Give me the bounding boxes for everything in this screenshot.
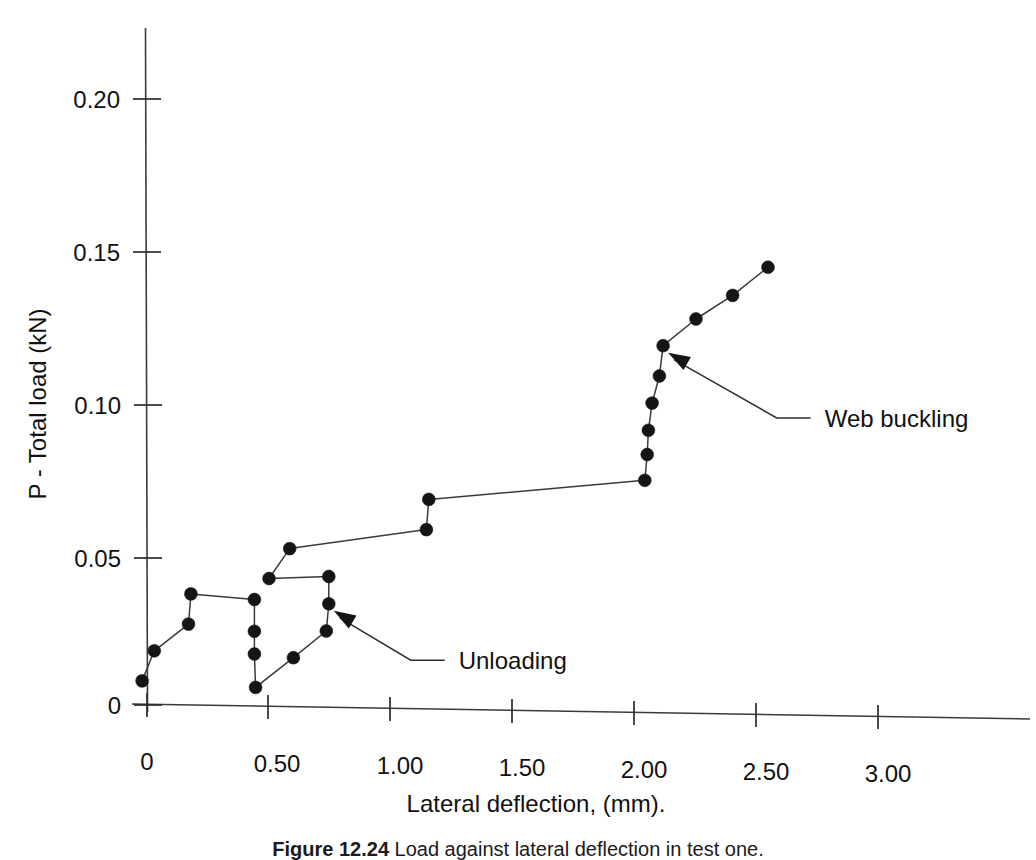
data-point-marker: [646, 397, 659, 410]
data-point-marker: [726, 289, 739, 302]
data-point-marker: [322, 570, 335, 583]
x-axis-title: Lateral deflection, (mm).: [407, 790, 666, 817]
y-axis-line: [146, 28, 148, 712]
data-point-marker: [248, 625, 261, 638]
data-point-marker: [420, 523, 433, 536]
x-ticks-group: [147, 693, 878, 729]
y-ticklabel-1: 0.05: [74, 545, 121, 572]
data-point-marker: [248, 648, 261, 661]
data-point-marker: [263, 572, 276, 585]
x-ticklabel-4: 2.00: [621, 756, 668, 783]
figure-caption-text: Load against lateral deflection in test …: [395, 838, 764, 860]
x-ticklabel-0: 0: [140, 748, 153, 775]
annotation-leader-line: [674, 360, 811, 418]
figure-container: 0.20 0.15 0.10 0.05 0 0 0.50 1.00 1.50 2…: [0, 0, 1036, 860]
figure-caption-number: Figure 12.24: [272, 838, 389, 860]
figure-caption-strip: Figure 12.24 Load against lateral deflec…: [0, 838, 1036, 860]
annotation-web-buckling-label: Web buckling: [825, 405, 969, 432]
annotations-layer: [334, 353, 811, 661]
data-point-marker: [136, 675, 149, 688]
y-ticklabel-0: 0: [108, 692, 121, 719]
data-point-marker: [182, 618, 195, 631]
x-ticklabel-5: 2.50: [743, 758, 790, 785]
y-axis-title: P - Total load (kN): [24, 308, 51, 499]
x-ticklabel-3: 1.50: [499, 754, 546, 781]
x-ticklabel-6: 3.00: [865, 760, 912, 787]
axes-group: [132, 28, 1030, 719]
figure-caption: Figure 12.24 Load against lateral deflec…: [0, 838, 1036, 860]
data-point-marker: [287, 651, 300, 664]
data-point-marker: [248, 593, 261, 606]
data-point-marker: [642, 424, 655, 437]
y-ticklabel-3: 0.15: [73, 239, 120, 266]
y-ticklabel-2: 0.10: [74, 392, 121, 419]
series-line: [142, 267, 768, 687]
x-ticklabel-1: 0.50: [254, 750, 301, 777]
x-ticklabel-2: 1.00: [377, 752, 424, 779]
data-point-marker: [638, 474, 651, 487]
data-point-marker: [185, 588, 198, 601]
data-point-marker: [641, 448, 654, 461]
x-ticklabels-group: 0 0.50 1.00 1.50 2.00 2.50 3.00: [140, 748, 911, 787]
data-point-marker: [762, 261, 775, 274]
x-axis-line: [132, 704, 1030, 719]
data-point-marker: [657, 339, 670, 352]
annotation-leader-line: [340, 618, 445, 660]
annotation-unloading-label: Unloading: [459, 647, 567, 674]
y-ticklabels-group: 0.20 0.15 0.10 0.05 0: [73, 86, 121, 719]
y-ticklabel-4: 0.20: [73, 86, 120, 113]
data-point-marker: [148, 644, 161, 657]
data-point-marker: [422, 493, 435, 506]
data-series-layer: [136, 261, 775, 694]
data-point-marker: [690, 313, 703, 326]
data-point-marker: [283, 542, 296, 555]
chart-canvas: 0.20 0.15 0.10 0.05 0 0 0.50 1.00 1.50 2…: [0, 0, 1036, 860]
data-point-marker: [653, 370, 666, 383]
data-point-marker: [320, 625, 333, 638]
data-point-marker: [322, 597, 335, 610]
data-point-marker: [249, 681, 262, 694]
